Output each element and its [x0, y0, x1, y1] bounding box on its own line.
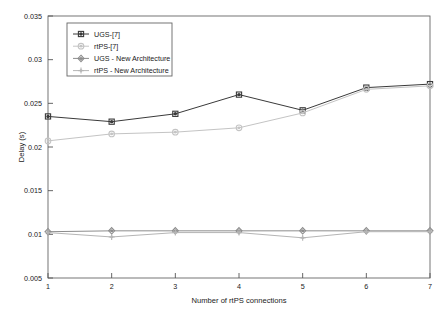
x-tick-label: 5 — [301, 282, 305, 291]
data-point-marker — [301, 236, 304, 239]
chart-figure: 0.0050.010.0150.020.0250.030.035 1234567… — [0, 0, 448, 317]
y-tick-label: 0.02 — [28, 143, 42, 152]
x-tick-label: 6 — [364, 282, 368, 291]
data-point-marker — [365, 88, 368, 91]
data-point-marker — [80, 57, 83, 60]
data-point-marker — [174, 231, 177, 234]
data-point-marker — [110, 229, 113, 232]
data-point-marker — [80, 69, 83, 72]
data-point-marker — [301, 112, 304, 115]
x-tick-label: 2 — [110, 282, 114, 291]
y-tick-label: 0.025 — [24, 99, 42, 108]
data-point-marker — [110, 133, 113, 136]
data-point-marker — [174, 131, 177, 134]
data-point-marker — [365, 230, 368, 233]
x-axis-title: Number of rtPS connections — [192, 296, 287, 305]
legend-label: rtPS - New Architecture — [94, 66, 169, 75]
y-tick-label: 0.01 — [28, 230, 42, 239]
y-axis-title: Delay (s) — [17, 131, 26, 162]
legend-label: rtPS-[7] — [94, 42, 118, 51]
legend-label: UGS-[7] — [94, 30, 120, 39]
data-point-marker — [301, 229, 304, 232]
x-tick-label: 4 — [237, 282, 241, 291]
data-point-marker — [47, 231, 50, 234]
data-point-marker — [110, 236, 113, 239]
data-point-marker — [80, 45, 83, 48]
y-tick-label: 0.03 — [28, 55, 42, 64]
delay-vs-rtps-connections-line-chart: 0.0050.010.0150.020.0250.030.035 1234567… — [0, 0, 448, 317]
data-point-marker — [46, 115, 49, 118]
chart-legend: UGS-[7]rtPS-[7]UGS - New ArchitecturertP… — [67, 23, 172, 76]
legend-label: UGS - New Architecture — [94, 54, 170, 63]
data-point-marker — [238, 231, 241, 234]
x-tick-label: 7 — [428, 282, 432, 291]
data-point-marker — [47, 139, 50, 142]
data-point-marker — [429, 230, 432, 233]
y-tick-label: 0.005 — [24, 274, 42, 283]
data-point-marker — [79, 32, 82, 35]
data-point-marker — [238, 126, 241, 129]
data-point-marker — [174, 112, 177, 115]
data-point-marker — [237, 93, 240, 96]
x-tick-label: 3 — [173, 282, 177, 291]
x-tick-label: 1 — [46, 282, 50, 291]
data-point-marker — [110, 120, 113, 123]
y-tick-label: 0.035 — [24, 12, 42, 21]
y-tick-label: 0.015 — [24, 186, 42, 195]
data-point-marker — [429, 84, 432, 87]
